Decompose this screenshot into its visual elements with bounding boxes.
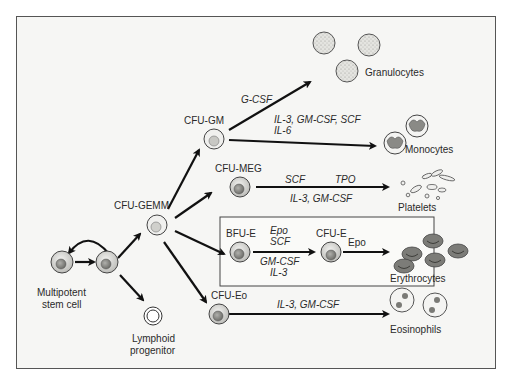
stem-cell-right (96, 251, 118, 273)
eosinophils-icon (390, 288, 447, 317)
cytokine-bfu-scf: SCF (270, 236, 291, 247)
cfu-e-cell (321, 242, 341, 262)
hematopoiesis-diagram: Multipotent stem cell Lymphoid progenito… (0, 0, 511, 389)
cfu-gm-cell (204, 129, 224, 149)
cfu-meg-label: CFU-MEG (215, 163, 262, 174)
cytokine-platelets-tpo: TPO (335, 174, 356, 185)
to-lymphoid-arrow (120, 275, 143, 300)
lymphoid-progenitor-cell (144, 307, 162, 325)
cytokine-platelets-il3: IL-3, GM-CSF (290, 193, 353, 204)
to-bfu-e-arrow (175, 231, 224, 254)
cytokine-bfu-il3: IL-3 (270, 267, 288, 278)
bfu-e-label: BFU-E (226, 228, 256, 239)
cytokine-eosinophils: IL-3, GM-CSF (277, 299, 340, 310)
to-cfu-eo-arrow (164, 242, 206, 302)
bfu-e-cell (230, 242, 250, 262)
to-cfu-meg-arrow (175, 193, 211, 218)
monocytes-label: Monocytes (405, 144, 453, 155)
to-cfu-gemm-arrow (118, 234, 140, 258)
platelets-label: Platelets (398, 202, 436, 213)
cfu-eo-cell (209, 304, 229, 324)
cytokine-g-csf: G-CSF (241, 94, 273, 105)
cytokine-bfu-gmcsf: GM-CSF (260, 256, 300, 267)
to-cfu-gm-arrow (168, 150, 199, 209)
cfu-meg-cell (230, 177, 250, 197)
erythrocytes-label: Erythrocytes (390, 273, 446, 284)
cytokine-bfu-epo: Epo (270, 225, 288, 236)
cytokine-platelets-scf: SCF (285, 174, 306, 185)
cfu-gemm-cell (147, 215, 167, 235)
to-monocytes-arrow (229, 140, 375, 146)
stem-cell-left (51, 251, 73, 273)
cytokine-monocytes-2: IL-6 (274, 125, 292, 136)
cfu-gemm-label: CFU-GEMM (114, 200, 169, 211)
lymphoid-label-1: Lymphoid (132, 333, 175, 344)
cytokine-cfu-e-epo: Epo (348, 237, 366, 248)
stem-cell-label-1: Multipotent (37, 287, 86, 298)
eosinophils-label: Eosinophils (390, 324, 441, 335)
cfu-e-label: CFU-E (316, 228, 347, 239)
platelets-icon (401, 168, 455, 199)
cytokine-monocytes-1: IL-3, GM-CSF, SCF (274, 114, 361, 125)
lymphoid-label-2: progenitor (130, 345, 176, 356)
stem-cell-label-2: stem cell (42, 299, 81, 310)
granulocytes-label: Granulocytes (365, 67, 424, 78)
cfu-eo-label: CFU-Eo (211, 290, 248, 301)
cfu-gm-label: CFU-GM (184, 115, 224, 126)
